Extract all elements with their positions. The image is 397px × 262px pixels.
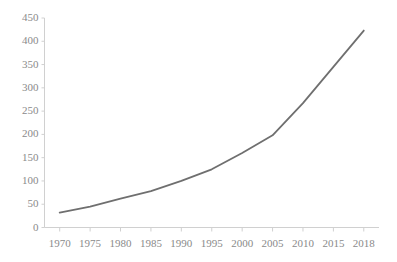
chart-axes	[45, 18, 380, 228]
y-axis-tick-label: 300	[6, 82, 39, 93]
y-axis-tick-label: 200	[6, 128, 39, 139]
y-axis-tick-label: 50	[6, 198, 39, 209]
x-axis-ticks	[60, 228, 364, 232]
y-axis-tick-label: 400	[6, 35, 39, 46]
y-axis-tick-label: 150	[6, 152, 39, 163]
line-chart: 050100150200250300350400450 197019751980…	[0, 0, 397, 262]
y-axis-tick-label: 450	[6, 12, 39, 23]
y-axis-tick-label: 350	[6, 59, 39, 70]
data-series-line	[60, 31, 364, 213]
y-axis-tick-label: 100	[6, 175, 39, 186]
y-axis-tick-label: 0	[6, 222, 39, 233]
x-axis-tick-label: 2018	[344, 238, 384, 249]
y-axis-tick-label: 250	[6, 105, 39, 116]
chart-plot-area	[0, 0, 397, 262]
